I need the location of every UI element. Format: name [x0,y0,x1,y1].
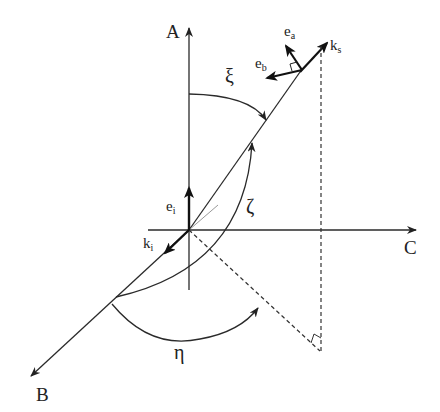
zeta-label: ζ [246,196,254,216]
ei-base: e [166,198,173,214]
ki-base: k [143,235,151,251]
axis-b-label: B [36,385,49,404]
eta-arc [112,304,258,341]
eb-sub: b [262,62,267,73]
ks-label: ks [330,38,341,55]
ks-sub: s [338,44,342,55]
eta-label: η [174,342,184,362]
xi-label: ξ [225,66,234,86]
ea-base: e [284,23,291,39]
ks-line [189,72,300,230]
eb-base: e [255,55,262,71]
ea-vector [286,46,302,70]
ei-label: ei [166,199,175,216]
axis-c-label: C [404,238,417,257]
ks-base: k [330,37,338,53]
ki-label: ki [143,236,153,253]
ei-sub: i [173,205,176,216]
eb-label: eb [255,56,267,73]
dashed-diagonal [189,230,320,351]
zeta-arc [116,143,252,297]
ks-vector [300,43,327,72]
ki-vector [165,230,189,253]
right-angle-bottom [311,334,321,343]
scattering-geometry-diagram [0,0,440,412]
axis-a-label: A [166,22,180,41]
ki-sub: i [151,242,154,253]
right-angle-ea-eb [290,62,297,71]
ea-label: ea [284,24,295,41]
xi-arc [189,94,266,120]
ea-sub: a [291,30,295,41]
